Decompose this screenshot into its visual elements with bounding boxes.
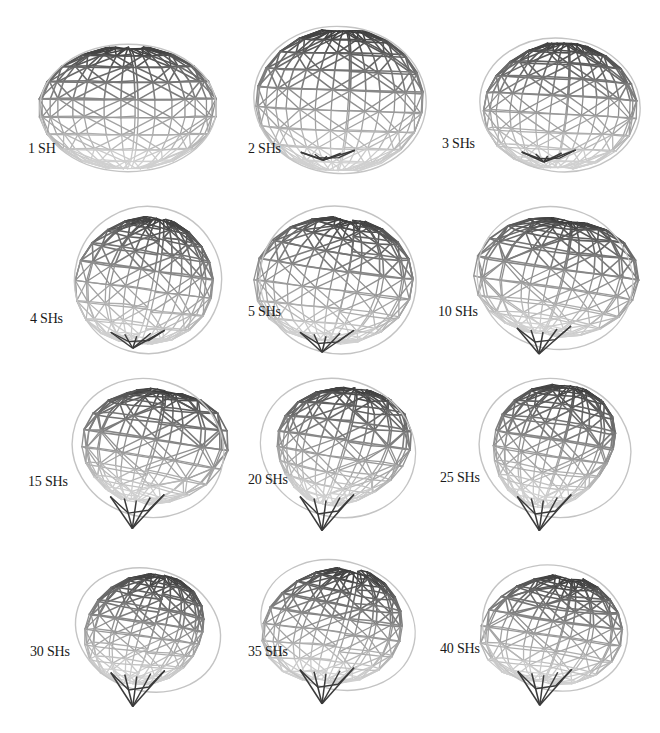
mesh-panel-12 (0, 0, 660, 733)
panel-label-12: 40 SHs (440, 641, 480, 657)
